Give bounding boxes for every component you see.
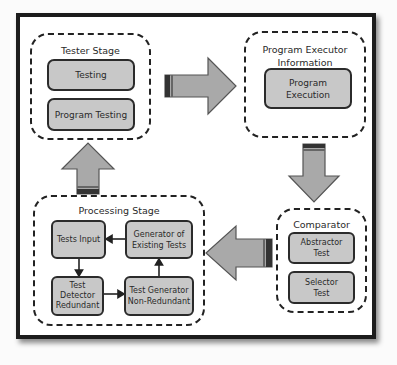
processing-stage-title: Processing Stage <box>35 204 203 217</box>
generator-existing-line2: Existing Tests <box>132 240 186 251</box>
generator-non-redundant-line1: Test Generator <box>130 285 189 296</box>
arrow-left-icon <box>206 226 272 280</box>
testing-box: Testing <box>47 59 135 91</box>
executor-title-line1: Program Executor <box>246 43 364 56</box>
program-testing-box: Program Testing <box>47 98 135 131</box>
program-execution-box: Program Execution <box>264 68 352 109</box>
detector-line2: Detector <box>60 291 95 301</box>
generator-existing-tests-box: Generator of Existing Tests <box>125 220 193 259</box>
arrow-right-icon <box>165 58 236 114</box>
tester-stage-title: Tester Stage <box>32 44 149 57</box>
abstractor-test-line1: Abstractor <box>301 237 343 248</box>
executor-stage-title: Program Executor Information <box>246 43 364 69</box>
program-testing-label: Program Testing <box>55 109 127 121</box>
program-execution-line2: Execution <box>286 89 330 101</box>
detector-line3: Redundant <box>56 301 100 311</box>
test-generator-non-redundant-box: Test Generator Non-Redundant <box>124 276 194 316</box>
test-detector-redundant-box: Test Detector Redundant <box>51 276 104 316</box>
generator-non-redundant-line2: Non-Redundant <box>128 296 190 307</box>
selector-test-box: Selector Test <box>288 271 355 304</box>
abstractor-test-box: Abstractor Test <box>288 232 355 264</box>
detector-line1: Test <box>70 281 86 291</box>
comparator-title: Comparator <box>278 218 365 231</box>
arrow-up-icon <box>62 143 114 194</box>
tests-input-label: Tests Input <box>57 234 100 245</box>
testing-label: Testing <box>75 69 107 81</box>
abstractor-test-line2: Test <box>314 248 330 259</box>
tests-input-box: Tests Input <box>51 220 106 259</box>
selector-test-line2: Test <box>314 288 330 299</box>
program-execution-line1: Program <box>289 77 327 89</box>
selector-test-line1: Selector <box>305 277 338 288</box>
arrow-down-icon <box>289 144 339 202</box>
generator-existing-line1: Generator of <box>134 229 185 240</box>
